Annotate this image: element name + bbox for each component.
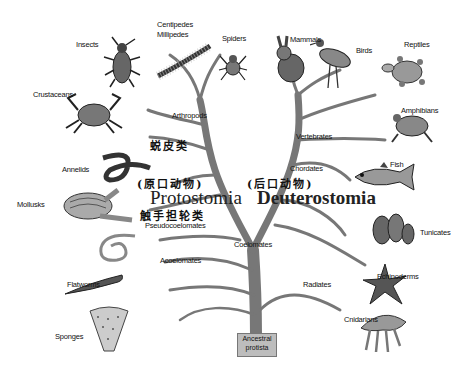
label-insects: Insects [76,40,98,49]
sponge-icon [88,305,130,355]
turtle-icon [380,52,430,92]
branch-label-acoelomates: Acoelomates [160,256,201,265]
starfish-icon [360,262,410,307]
figure-caption-illegible [190,366,290,372]
centipede-icon [155,40,215,80]
label-crustaceans: Crustaceans [33,90,73,99]
branch-label-chordates: Chordates [290,164,323,173]
annotation-lophotrochozoa-zh: 触手担轮类 [140,207,205,223]
label-sponges: Sponges [55,332,83,341]
roundworm-icon [95,230,140,270]
tunicate-icon [370,208,415,248]
root-label-line1: Ancestral [238,334,276,343]
root-node-ancestral-protista: Ancestral protista [237,333,277,357]
mollusk-snail-icon [60,188,135,228]
label-mollusks: Mollusks [17,200,45,209]
label-birds: Birds [356,46,372,55]
label-fish: Fish [390,160,403,169]
branch-label-coelomates: Coelomates [234,240,272,249]
label-cnidarians: Cnidarians [344,315,378,324]
root-label-line2: protista [238,343,276,352]
group-title-deuterostomia: Deuterostomia [257,187,376,209]
phylogenetic-tree-diagram: Insects Centipedes Millipedes Spiders Ma… [0,0,466,375]
group-title-protostomia: Protostomia [150,187,242,209]
label-centipedes: Centipedes [157,20,193,29]
label-reptiles: Reptiles [404,40,430,49]
label-annelids: Annelids [62,165,89,174]
branch-label-vertebrates: Vertebrates [296,132,332,141]
annotation-ecdysozoa-zh: 蜕皮类 [150,137,189,153]
label-spiders: Spiders [222,34,246,43]
label-amphibians: Amphibians [401,106,438,115]
label-echinoderms: Echinoderms [377,272,419,281]
branch-label-arthropods: Arthropods [172,111,207,120]
label-mammals: Mammals [290,35,321,44]
spider-icon [218,48,248,83]
label-tunicates: Tunicates [420,228,450,237]
label-millipedes: Millipedes [157,30,188,39]
branch-label-radiates: Radiates [303,280,331,289]
label-flatworms: Flatworms [67,280,100,289]
insect-beetle-icon [100,35,145,90]
